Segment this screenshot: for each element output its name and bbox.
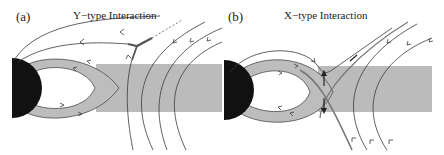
field-line-inner [18,43,128,62]
outflow-arrow [350,55,357,61]
panel-a: (a) Y−type Interaction [0,0,222,155]
panel-label-b: (b) [228,9,243,25]
field-line-outer [14,16,160,60]
arrow-icon [126,55,131,59]
panel-title-b: X−type Interaction [284,9,367,21]
dashed-extension [152,20,182,38]
arrow-icon [60,103,64,107]
panel-b: (b) X−type Interaction [222,0,444,155]
arrow-icon [278,71,282,75]
arrow-icon [120,29,124,35]
arrow-icon [80,39,84,45]
panel-a-diagram [0,0,222,155]
y-point-leg [132,46,137,60]
panel-b-diagram [222,0,444,155]
panel-label-a: (a) [16,9,30,25]
arrow-icon [370,140,374,144]
panel-title-a: Y−type Interaction [73,9,156,21]
plasma-band [318,66,432,112]
arrow-icon [190,38,194,42]
arrow-icon [389,140,393,144]
arrow-icon [352,138,356,142]
arrow-icon [407,41,411,45]
y-point-stem [128,38,152,46]
arrow-icon [87,60,91,64]
arrow-icon [207,37,211,41]
arrow-icon [278,106,282,110]
